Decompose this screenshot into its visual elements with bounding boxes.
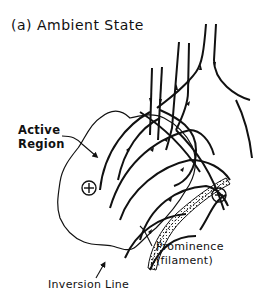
field-direction-arrows: [149, 62, 216, 105]
positive-polarity-icon: [82, 181, 96, 195]
figure-title: (a) Ambient State: [11, 18, 144, 32]
prominence-label: Prominence (filament): [156, 240, 224, 268]
active-region-label-line1: Active: [18, 123, 65, 137]
prominence-label-line2: (filament): [156, 254, 224, 268]
prominence-label-line1: Prominence: [156, 240, 224, 254]
active-region-label-line2: Region: [18, 137, 65, 151]
inversion-line-label: Inversion Line: [48, 279, 129, 290]
active-region-label: Active Region: [18, 123, 65, 151]
field-line-diagram: [0, 0, 266, 302]
inversion-line-pointer: [96, 264, 104, 278]
ambient-state-diagram: (a) Ambient State Active Region Prominen…: [0, 0, 266, 302]
